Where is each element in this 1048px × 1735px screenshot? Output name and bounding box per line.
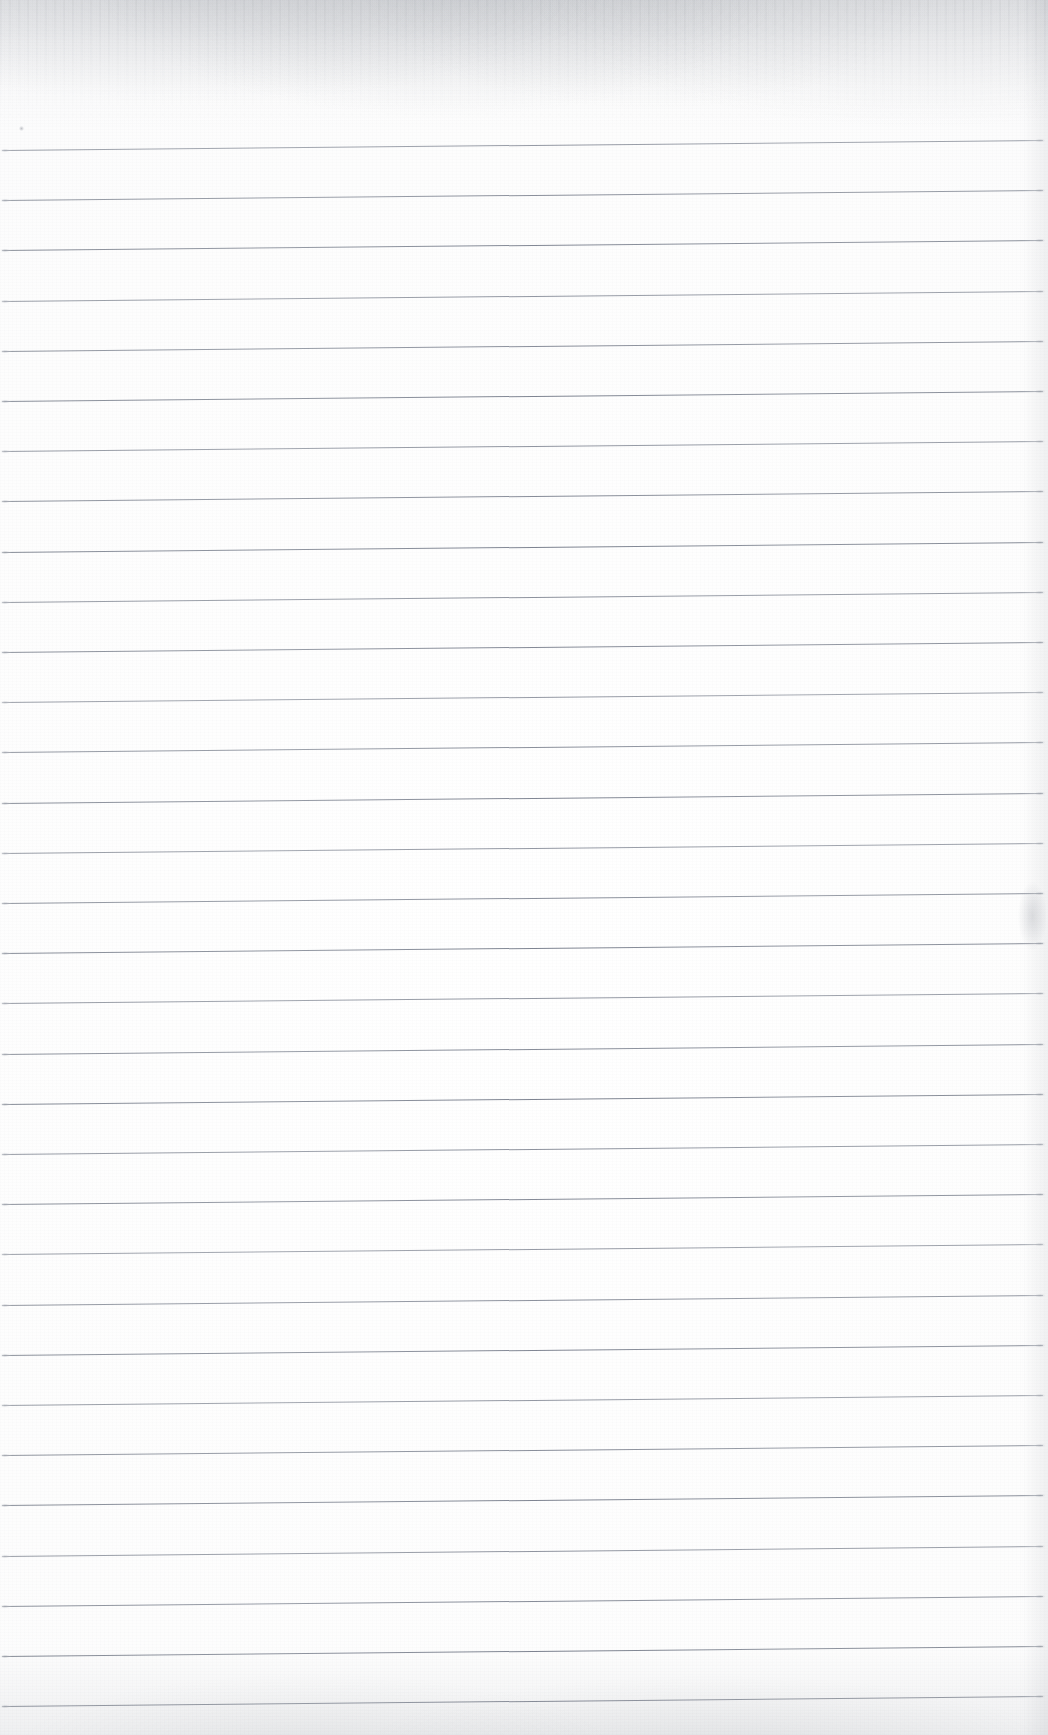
scanned-page — [0, 0, 1048, 1735]
paper-background — [0, 0, 1048, 1735]
